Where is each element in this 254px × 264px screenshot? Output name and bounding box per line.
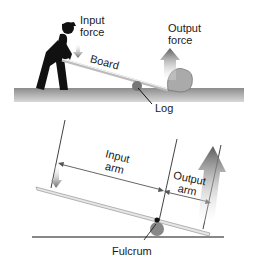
ground	[14, 88, 244, 102]
input-force-label-line2: force	[80, 26, 104, 38]
lever-diagram	[0, 0, 254, 264]
log-label: Log	[155, 102, 173, 114]
input-force-arrow-lower	[51, 166, 62, 188]
log	[132, 81, 142, 91]
output-force-label: Output force	[168, 22, 201, 46]
output-force-label-line2: force	[168, 34, 201, 46]
fulcrum-label: Fulcrum	[112, 245, 152, 257]
input-force-arrow	[73, 44, 83, 58]
output-force-label-line1: Output	[168, 22, 201, 34]
input-force-label: Input force	[80, 14, 104, 38]
person-silhouette	[36, 22, 76, 90]
input-force-label-line1: Input	[80, 14, 104, 26]
